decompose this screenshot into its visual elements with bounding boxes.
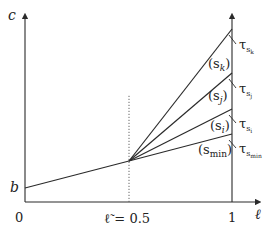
y-axis-label: c — [8, 7, 16, 23]
label-s-min: (smin) — [198, 142, 232, 159]
base-segment — [25, 161, 129, 188]
x-end-label: 1 — [228, 210, 236, 225]
tau-s-i: τsi — [239, 116, 252, 134]
x-axis-label: ℓ — [255, 206, 261, 222]
origin-label: 0 — [15, 210, 23, 225]
tau-s-min: τsmin — [239, 141, 262, 159]
label-s-i: (si) — [210, 118, 230, 135]
tau-s-j: τsj — [239, 81, 252, 100]
b-label: b — [10, 179, 19, 195]
label-s-j: (sj) — [208, 88, 228, 105]
label-s-k: (sk) — [208, 56, 230, 73]
tau-s-k: τsk — [239, 37, 254, 55]
midpoint-label: ℓ̃ = 0.5 — [104, 211, 150, 226]
cost-diagram: c ℓ 0 1 b ℓ̃ = 0.5 (sk) (sj) (si) (smin)… — [0, 0, 271, 231]
